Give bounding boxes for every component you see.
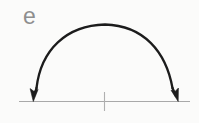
arc-annotation-label: e: [23, 5, 36, 28]
trajectory-diagram: e: [0, 0, 199, 123]
trajectory-arc: [37, 25, 173, 89]
arrowhead-left-icon: [30, 89, 38, 102]
